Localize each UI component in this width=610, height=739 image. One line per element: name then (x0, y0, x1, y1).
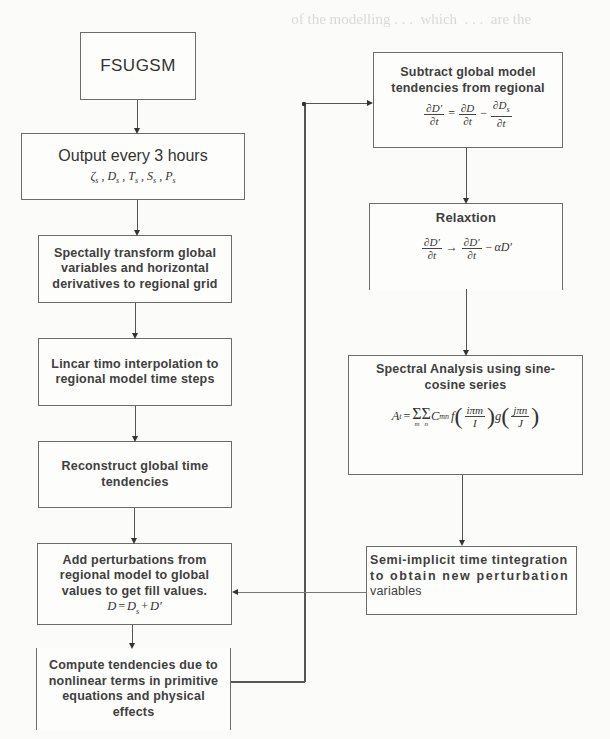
den: I (471, 417, 479, 429)
op: → (446, 240, 458, 254)
op: − (480, 106, 487, 120)
sub: t (399, 412, 401, 421)
box-spectral-transform: Spectally transform global variables and… (38, 235, 232, 303)
relaxation-label: Relaxtion (436, 210, 496, 226)
spectral-analysis-line-2: cosine series (425, 378, 507, 394)
num: iπm (465, 404, 486, 417)
arrowhead-icon (132, 436, 138, 442)
relaxation-equation: ∂D′∂t→∂D′∂t−αD′ (420, 236, 512, 261)
arrowhead-icon (459, 540, 465, 546)
output-label: Output every 3 hours (58, 147, 207, 165)
arrowhead-icon (129, 643, 135, 649)
add-perturbations-line-1: Add perturbations from (63, 553, 207, 569)
arrowhead-icon (134, 128, 140, 134)
connector-to-subtract (305, 103, 369, 104)
sym: A (392, 409, 400, 424)
add-perturbations-math: D=Ds+D′ (107, 599, 162, 616)
sep: , (156, 169, 165, 183)
arrowhead-icon (134, 230, 140, 236)
add-perturbations-line-2: regional model to global (60, 568, 209, 584)
sigma: Σ (422, 406, 431, 421)
compute-line-1: Compute tendencies due to (49, 658, 218, 674)
subtract-equation: ∂D′∂t=∂D∂t−∂Ds∂t (422, 99, 513, 129)
paren: ) (487, 403, 495, 430)
frac: ∂D′∂t (462, 236, 482, 261)
arrowhead-icon (232, 589, 238, 595)
paren: ( (455, 403, 463, 430)
den: J (516, 417, 525, 429)
connector-add-compute (132, 625, 133, 645)
output-variables-math: ζs , Ds , Ts , Ss , Ps (90, 169, 175, 185)
box-linear-interpolation: Lincar timo interpolation to regional mo… (38, 338, 232, 406)
linear-interp-line-1: Lincar timo interpolation to (51, 357, 218, 373)
num: ∂Ds (491, 99, 512, 117)
var-t: T (128, 169, 135, 183)
sym: ∂D (493, 99, 506, 111)
compute-line-3: equations and physical (62, 689, 205, 705)
den: ∂t (461, 115, 474, 127)
add-perturbations-line-3: values to get fill values. (62, 584, 208, 600)
idx: n (425, 421, 429, 428)
box-subtract-tendencies: Subtract global model tendencies from re… (373, 52, 563, 148)
sep: , (119, 169, 128, 183)
connector-linear-reconstruct (135, 406, 136, 438)
sigma: Σ (412, 406, 421, 421)
box-add-perturbations: Add perturbations from regional model to… (37, 543, 232, 625)
spectral-transform-line-1: Spectally transform global (54, 246, 216, 262)
sym: D (107, 599, 116, 613)
reconstruct-line-1: Reconstruct global time (62, 459, 209, 475)
semi-implicit-line-1: Semi-implicit time tintegration (370, 553, 568, 569)
den: ∂t (428, 115, 441, 127)
compute-line-4: effects (113, 705, 155, 721)
fsugsm-label: FSUGSM (100, 56, 176, 76)
frac: iπmI (465, 404, 486, 429)
connector-fsugsm-output (137, 100, 138, 130)
reconstruct-line-2: tendencies (101, 475, 168, 491)
num: ∂D′ (424, 102, 444, 115)
sub: s (507, 105, 510, 114)
paren: ( (501, 403, 509, 430)
spectral-analysis-line-1: Spectral Analysis using sine- (376, 362, 555, 378)
arrowhead-icon (131, 538, 137, 544)
spectral-transform-line-3: derivatives to regional grid (52, 277, 217, 293)
sub: s (136, 607, 139, 616)
ghost-line: of the modelling . . . which . . . are t… (250, 8, 561, 30)
arrowhead-icon (463, 198, 469, 204)
sep: , (138, 169, 147, 183)
box-output-every-3-hours: Output every 3 hours ζs , Ds , Ts , Ss ,… (21, 133, 245, 200)
connector-semi-add (238, 592, 366, 593)
semi-implicit-line-3: variables (370, 584, 422, 600)
connector-subtract-relaxation (466, 148, 467, 200)
box-fsugsm: FSUGSM (80, 32, 196, 100)
op: = (118, 599, 125, 613)
num: ∂D (459, 102, 476, 115)
frac: jπnJ (511, 404, 529, 429)
arrowhead-icon (463, 350, 469, 356)
sub: s (172, 177, 175, 186)
num: jπn (511, 404, 529, 417)
connector-reconstruct-add (134, 508, 135, 540)
sum-m: Σm (412, 406, 421, 428)
box-semi-implicit-integration: Semi-implicit time tintegration to obtai… (366, 546, 577, 615)
connector-spectral-linear (135, 303, 136, 335)
connector-spectral-semi (462, 475, 463, 542)
op: = (404, 409, 411, 424)
op: − (486, 240, 493, 254)
den: ∂t (495, 117, 508, 129)
spectral-transform-line-2: variables and horizontal (61, 261, 209, 277)
sub: mn (439, 412, 449, 421)
connector-compute-right (231, 681, 305, 683)
frac: ∂Ds∂t (491, 99, 512, 129)
spectral-analysis-equation: At = Σm Σn Cmn f (iπmI) g (jπnJ) (392, 403, 540, 430)
compute-line-2: nonlinear terms in primitive (49, 674, 219, 690)
paren: ) (531, 403, 539, 430)
connector-output-spectral (137, 200, 138, 232)
op: + (141, 599, 148, 613)
box-relaxation: Relaxtion ∂D′∂t→∂D′∂t−αD′ (369, 203, 563, 290)
num: ∂D′ (462, 236, 482, 249)
frac: ∂D′∂t (424, 102, 444, 127)
arrowhead-icon (132, 333, 138, 339)
num: ∂D′ (422, 236, 442, 249)
arrowhead-icon (367, 100, 373, 106)
den: ∂t (426, 249, 439, 261)
